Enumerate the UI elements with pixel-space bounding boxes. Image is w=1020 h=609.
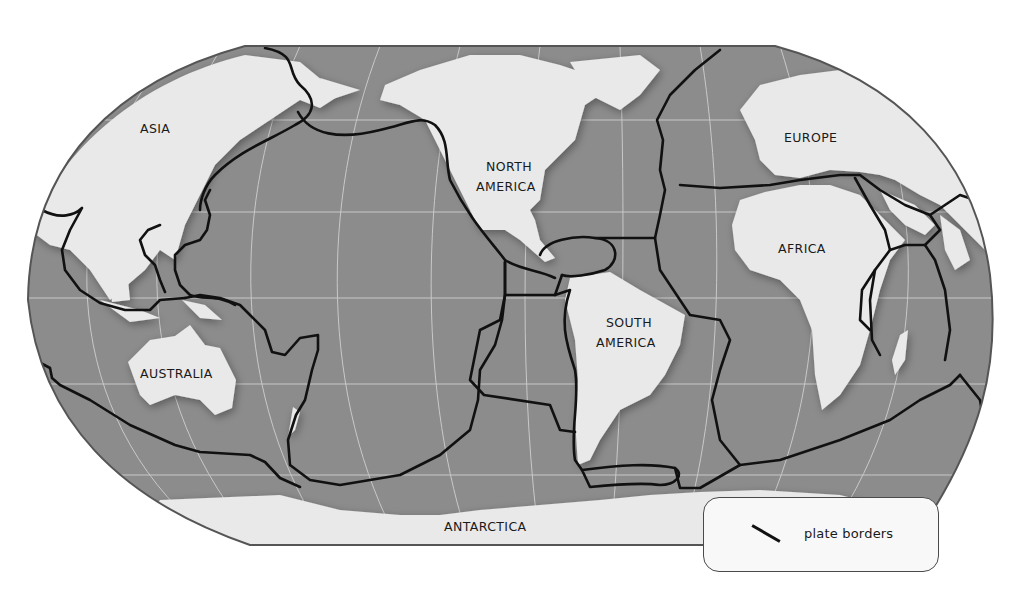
legend: plate borders bbox=[703, 497, 939, 572]
legend-label: plate borders bbox=[804, 526, 893, 541]
label-south-america-line1: SOUTH bbox=[606, 315, 652, 330]
label-africa: AFRICA bbox=[778, 241, 826, 256]
label-south-america-line2: AMERICA bbox=[596, 335, 656, 350]
label-australia: AUSTRALIA bbox=[140, 366, 213, 381]
label-asia: ASIA bbox=[140, 121, 170, 136]
plate-border-line-icon bbox=[751, 524, 780, 543]
label-europe: EUROPE bbox=[784, 130, 837, 145]
label-north-america-line2: AMERICA bbox=[476, 179, 536, 194]
label-north-america-line1: NORTH bbox=[486, 159, 532, 174]
label-antarctica: ANTARCTICA bbox=[444, 519, 527, 534]
